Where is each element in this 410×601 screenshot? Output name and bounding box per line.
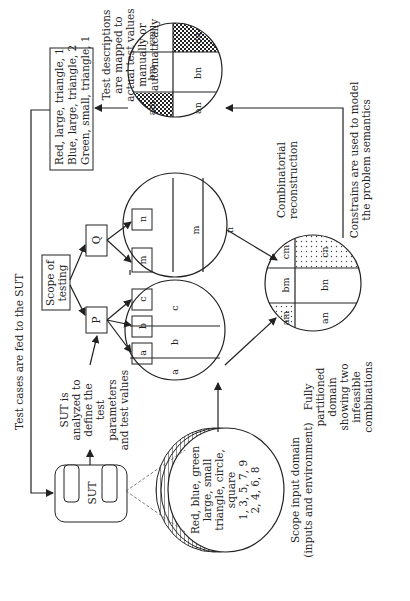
test-case-2: Blue, large, triangle, 2 (66, 45, 78, 165)
svg-text:1, 3, 5, 7, 9: 1, 3, 5, 7, 9 (237, 460, 249, 520)
sut-label: SUT (86, 481, 98, 504)
svg-text:infeasible: infeasible (350, 371, 362, 423)
full-partition-caption: Fully partitioned domain showing two inf… (302, 361, 374, 432)
svg-text:2, 4, 6, 8: 2, 4, 6, 8 (249, 467, 261, 514)
svg-text:an: an (319, 312, 330, 324)
svg-text:am: am (280, 311, 291, 326)
svg-text:cn: cn (319, 246, 330, 257)
svg-text:Scope of: Scope of (44, 259, 56, 306)
svg-text:bm: bm (146, 65, 157, 80)
test-case-3: Green, small, triangle, 1 (79, 35, 91, 165)
svg-text:cm: cm (280, 245, 291, 259)
svg-text:Test descriptions: Test descriptions (100, 10, 112, 101)
node-q: Q (86, 225, 107, 256)
svg-text:analyzed to: analyzed to (70, 380, 82, 441)
svg-text:a: a (169, 369, 180, 375)
svg-text:am: am (146, 101, 157, 116)
input-domain-disk: Red, blue, green large, small triangle, … (126, 428, 284, 552)
svg-text:Combinatorial: Combinatorial (275, 141, 287, 218)
svg-text:(inputs and environment): (inputs and environment) (302, 422, 314, 557)
testing-process-diagram: Test cases are fed to the SUT Red, large… (0, 0, 410, 601)
input-domain-caption: Scope input domain (inputs and environme… (289, 422, 314, 557)
svg-text:large, small: large, small (201, 458, 213, 521)
feedback-label: Test cases are fed to the SUT (13, 274, 25, 430)
svg-text:an: an (192, 102, 203, 114)
svg-text:define the: define the (82, 383, 94, 436)
svg-text:cn: cn (192, 32, 203, 43)
svg-text:square: square (225, 472, 237, 508)
svg-text:n: n (137, 216, 148, 222)
node-n: n (132, 209, 152, 230)
sut-note: SUT is analyzed to define the test param… (58, 370, 130, 450)
svg-text:parameters: parameters (106, 379, 118, 440)
svg-text:partitioned: partitioned (314, 367, 326, 426)
svg-text:Scope input domain: Scope input domain (289, 437, 301, 543)
scope-box: Scope of testing (42, 255, 70, 310)
svg-text:SUT is: SUT is (58, 392, 70, 427)
svg-text:b: b (169, 339, 180, 345)
svg-text:showing two: showing two (338, 363, 350, 430)
combinatorial-note: Combinatorial reconstruction (275, 141, 299, 219)
svg-text:combinations: combinations (362, 361, 374, 432)
svg-text:Constrains are used to model: Constrains are used to model (348, 81, 360, 238)
svg-text:c: c (169, 305, 180, 310)
svg-text:cm: cm (146, 31, 157, 45)
constraints-note: Constrains are used to model the problem… (348, 81, 372, 238)
svg-text:the problem semantics: the problem semantics (360, 99, 372, 221)
svg-text:Q: Q (90, 235, 102, 244)
svg-text:and test values: and test values (118, 370, 130, 450)
svg-text:m: m (137, 255, 148, 264)
svg-text:bm: bm (280, 277, 291, 292)
svg-text:bn: bn (319, 279, 330, 291)
svg-text:testing: testing (56, 264, 68, 301)
svg-text:a: a (137, 350, 148, 356)
svg-text:test: test (94, 399, 106, 420)
svg-text:reconstruction: reconstruction (287, 141, 299, 219)
svg-text:triangle, circle,: triangle, circle, (213, 449, 225, 531)
svg-text:bn: bn (192, 67, 203, 79)
test-case-1: Red, large, triangle, 1 (53, 48, 65, 165)
sut-box: SUT (55, 450, 127, 522)
node-p: P (86, 307, 107, 333)
svg-text:Red, blue, green: Red, blue, green (189, 446, 201, 534)
svg-text:domain: domain (326, 377, 338, 417)
sut-slot-right (102, 465, 117, 502)
test-cases-box: Red, large, triangle, 1 Blue, large, tri… (50, 35, 93, 170)
svg-text:c: c (137, 296, 148, 301)
node-m: m (132, 248, 152, 272)
svg-text:m: m (190, 225, 201, 234)
svg-text:are mapped to: are mapped to (112, 16, 124, 93)
sut-slot-left (64, 465, 79, 502)
full-partition-circle: am bm cm an bn cn (265, 233, 365, 333)
svg-text:P: P (90, 316, 102, 323)
svg-text:Fully: Fully (302, 384, 314, 411)
